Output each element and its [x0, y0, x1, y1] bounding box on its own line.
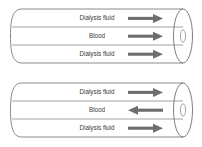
cylinder-top-end-cap — [174, 9, 193, 63]
cylinder-bottom-channel-0-arrow-right-icon — [128, 88, 163, 97]
cylinder-top-bore — [180, 30, 185, 42]
cylinder-top: Dialysis fluid Blood Dialysis fluid — [11, 9, 193, 63]
diagram-canvas: Dialysis fluid Blood Dialysis fluid — [0, 0, 202, 147]
cylinder-top-channel-2-label: Dialysis fluid — [80, 50, 115, 58]
cylinder-bottom-channel-1-arrow-left-icon — [128, 106, 163, 115]
cylinder-top-channel-1-arrow-right-icon — [128, 32, 163, 41]
cylinder-bottom-channel-0-label: Dialysis fluid — [80, 88, 115, 96]
cylinder-bottom-bore — [180, 104, 185, 116]
cylinder-bottom-channel-2-arrow-right-icon — [128, 124, 163, 133]
cylinder-bottom-channel-2-label: Dialysis fluid — [80, 124, 115, 132]
cylinder-top-channel-0-arrow-right-icon — [128, 14, 163, 23]
dialysis-flow-diagram: Dialysis fluid Blood Dialysis fluid — [0, 0, 202, 147]
cylinder-top-channel-0-label: Dialysis fluid — [80, 14, 115, 22]
cylinder-bottom-channel-1-label: Blood — [89, 106, 106, 113]
cylinder-bottom: Dialysis fluid Blood Dialysis fluid — [11, 83, 193, 137]
cylinder-bottom-end-cap — [174, 83, 193, 137]
cylinder-top-channel-2-arrow-right-icon — [128, 50, 163, 59]
cylinder-top-channel-1-label: Blood — [89, 32, 106, 39]
